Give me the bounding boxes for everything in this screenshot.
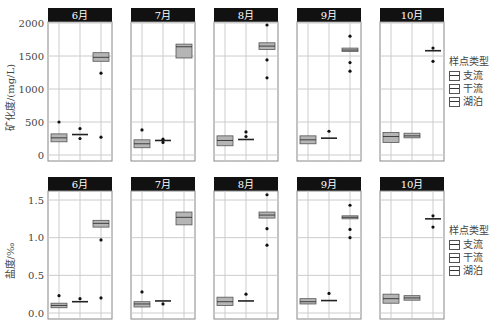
legend-title: 样点类型 <box>449 55 489 68</box>
y-tick-label: 1000 <box>19 84 44 95</box>
facet-panel: 7月 <box>131 8 195 161</box>
box-0 <box>300 136 316 144</box>
facet-title: 10月 <box>401 179 424 190</box>
outlier-point <box>140 290 143 293</box>
y-tick-label: 0.5 <box>28 270 44 281</box>
outlier-point <box>265 227 268 230</box>
boxplot-figure: 矿化度/(mg/L)05001000150020006月7月8月9月10月盐度/… <box>0 0 497 327</box>
outlier-point <box>348 236 351 239</box>
legend-item-lake: 湖泊 <box>449 264 489 277</box>
legend-item-lake: 湖泊 <box>449 95 489 108</box>
outlier-point <box>348 228 351 231</box>
legend-item-tributary: 支流 <box>449 69 489 82</box>
facet-panel: 6月 <box>48 177 112 319</box>
box-swatch-icon <box>449 253 460 263</box>
outlier-point <box>78 127 81 130</box>
outlier-point <box>348 35 351 38</box>
y-tick-label: 1.0 <box>28 232 44 243</box>
outlier-point <box>265 244 268 247</box>
outlier-point <box>244 135 247 138</box>
outlier-point <box>327 292 330 295</box>
y-axis-label: 矿化度/(mg/L) <box>4 64 16 131</box>
outlier-point <box>431 46 434 49</box>
legend-item-mainstream: 干流 <box>449 251 489 264</box>
y-axis-label: 盐度/‰ <box>4 243 16 280</box>
y-tick-label: 1.5 <box>28 195 44 206</box>
facet-title: 8月 <box>238 179 254 190</box>
box-2 <box>176 44 192 58</box>
facet-title: 9月 <box>321 10 337 21</box>
outlier-point <box>161 302 164 305</box>
box-1 <box>404 133 420 138</box>
y-tick-label: 2000 <box>19 18 44 29</box>
box-2 <box>176 212 192 225</box>
legend-bottom: 样点类型 支流 干流 湖泊 <box>449 224 489 277</box>
box-0 <box>383 294 399 303</box>
outlier-point <box>348 70 351 73</box>
outlier-point <box>265 76 268 79</box>
outlier-point <box>161 141 164 144</box>
box-0 <box>300 299 316 304</box>
box-swatch-icon <box>449 97 460 107</box>
outlier-point <box>348 61 351 64</box>
outlier-point <box>431 226 434 229</box>
outlier-point <box>161 138 164 141</box>
outlier-point <box>78 297 81 300</box>
outlier-point <box>78 137 81 140</box>
facet-panel: 7月 <box>131 177 195 319</box>
facet-panel: 8月 <box>214 177 278 319</box>
outlier-point <box>57 120 60 123</box>
facet-panel: 8月 <box>214 8 278 161</box>
outlier-point <box>265 193 268 196</box>
legend-item-mainstream: 干流 <box>449 82 489 95</box>
y-tick-label: 1500 <box>19 51 44 62</box>
box-0 <box>383 133 399 143</box>
y-tick-label: 500 <box>25 117 44 128</box>
outlier-point <box>348 204 351 207</box>
facet-panel: 6月 <box>48 8 112 161</box>
facet-title: 7月 <box>155 179 171 190</box>
facet-panel: 10月 <box>380 8 444 161</box>
facet-panel: 9月 <box>297 177 361 319</box>
outlier-point <box>57 294 60 297</box>
facet-title: 6月 <box>72 10 88 21</box>
box-swatch-icon <box>449 266 460 276</box>
box-1 <box>404 296 420 301</box>
outlier-point <box>431 214 434 217</box>
outlier-point <box>265 23 268 26</box>
outlier-point <box>99 296 102 299</box>
box-0 <box>217 297 233 305</box>
legend-item-tributary: 支流 <box>449 238 489 251</box>
outlier-point <box>99 238 102 241</box>
outlier-point <box>99 72 102 75</box>
box-0 <box>217 136 233 146</box>
facet-title: 6月 <box>72 179 88 190</box>
outlier-point <box>99 136 102 139</box>
outlier-point <box>244 130 247 133</box>
salinity-chart: 盐度/‰0.00.51.01.56月7月8月9月10月 <box>4 177 444 319</box>
legend-title: 样点类型 <box>449 224 489 237</box>
y-tick-label: 0.0 <box>28 308 44 319</box>
outlier-point <box>244 293 247 296</box>
y-tick-label: 0 <box>38 150 44 161</box>
box-swatch-icon <box>449 84 460 94</box>
box-swatch-icon <box>449 71 460 81</box>
outlier-point <box>140 128 143 131</box>
facet-panel: 9月 <box>297 8 361 161</box>
facet-panel: 10月 <box>380 177 444 319</box>
facet-title: 8月 <box>238 10 254 21</box>
outlier-point <box>265 58 268 61</box>
outlier-point <box>431 60 434 63</box>
box-swatch-icon <box>449 240 460 250</box>
facet-title: 10月 <box>401 10 424 21</box>
facet-title: 7月 <box>155 10 171 21</box>
outlier-point <box>327 130 330 133</box>
facet-title: 9月 <box>321 179 337 190</box>
legend-top: 样点类型 支流 干流 湖泊 <box>449 55 489 108</box>
tds-chart: 矿化度/(mg/L)05001000150020006月7月8月9月10月 <box>4 8 444 161</box>
